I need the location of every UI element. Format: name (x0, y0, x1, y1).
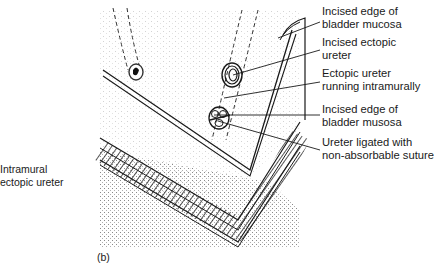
label-line: bladder musosa (322, 116, 402, 129)
callout-incised-edge-mucosa: Incised edge of bladder mucosa (322, 5, 402, 31)
callout-incised-ectopic-ureter: Incised ectopic ureter (322, 36, 396, 62)
label-line: Incised edge of (322, 103, 402, 116)
callout-ectopic-ureter-intramural: Ectopic ureter running intramurally (322, 67, 420, 93)
label-line: Incised ectopic (322, 36, 396, 49)
label-line: running intramurally (322, 80, 420, 93)
label-line: bladder mucosa (322, 18, 402, 31)
intramural-ectopic-ureter-label: Intramural ectopic ureter (0, 163, 64, 189)
label-line: Incised edge of (322, 5, 402, 18)
label-line: ureter (322, 49, 396, 62)
ureteric-orifice (129, 64, 143, 80)
label-line: non-absorbable suture (322, 149, 434, 162)
label-line: ectopic ureter (0, 176, 64, 189)
label-line: Ureter ligated with (322, 136, 434, 149)
panel-label: (b) (97, 251, 110, 264)
label-line: Ectopic ureter (322, 67, 420, 80)
callout-incised-edge-musosa: Incised edge of bladder musosa (322, 103, 402, 129)
callout-ureter-ligated: Ureter ligated with non-absorbable sutur… (322, 136, 434, 162)
label-line: Intramural (0, 163, 64, 176)
